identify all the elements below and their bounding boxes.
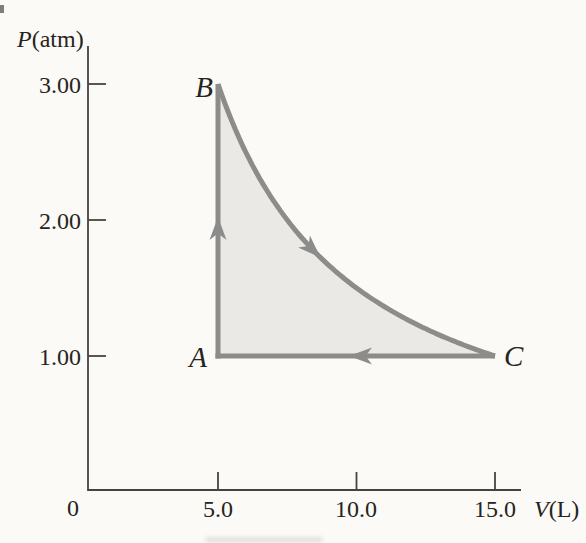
y-axis-unit: (atm)	[32, 26, 84, 52]
pv-diagram-canvas: 3.00 2.00 1.00 0 5.0 10.0 15.0 P(atm) V(…	[0, 0, 586, 543]
x-axis-unit: (L)	[549, 496, 580, 522]
x-tick-label-5.0: 5.0	[203, 496, 233, 522]
y-axis-title: P(atm)	[16, 26, 84, 52]
x-tick-label-10.0: 10.0	[335, 496, 377, 522]
point-label-a: A	[187, 341, 207, 373]
y-axis-symbol: P	[16, 26, 32, 52]
scan-artifact-speck	[0, 5, 4, 13]
origin-label: 0	[67, 495, 79, 521]
y-tick-label-2.00: 2.00	[39, 208, 81, 234]
y-tick-label-3.00: 3.00	[39, 72, 81, 98]
x-axis-title: V(L)	[534, 496, 579, 522]
pv-diagram-figure: 3.00 2.00 1.00 0 5.0 10.0 15.0 P(atm) V(…	[0, 0, 586, 543]
cycle-shaded-region	[218, 84, 495, 356]
cropped-caption-smudge	[205, 537, 323, 543]
point-label-c: C	[504, 340, 524, 372]
point-label-b: B	[195, 71, 213, 103]
x-tick-label-15.0: 15.0	[474, 496, 516, 522]
y-tick-label-1.00: 1.00	[39, 344, 81, 370]
